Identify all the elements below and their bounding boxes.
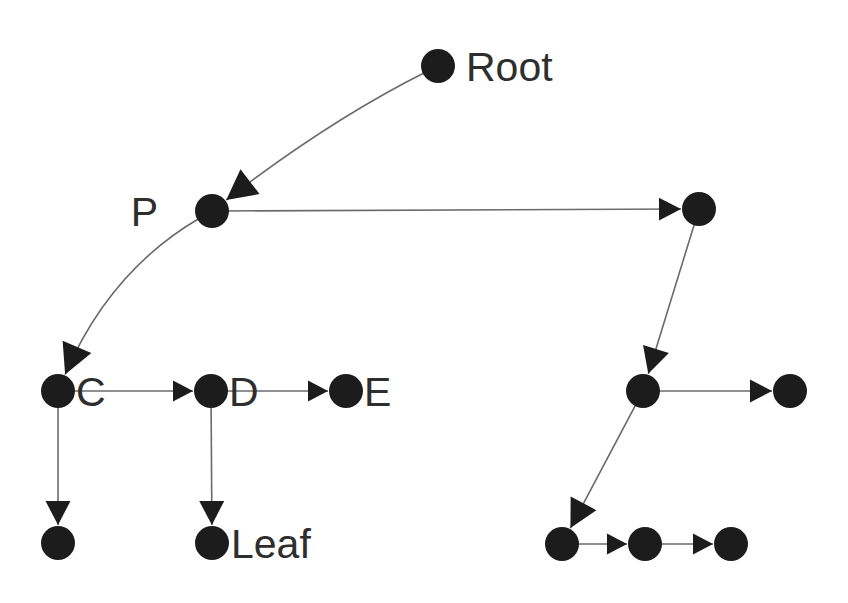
graph-node-e[interactable] bbox=[329, 374, 363, 408]
edges-layer bbox=[46, 72, 772, 555]
graph-svg: RootPCDELeaf bbox=[0, 0, 848, 603]
arrowhead-icon-r2-b1 bbox=[570, 497, 596, 529]
arrowhead-icon-c-d bbox=[173, 381, 193, 402]
arrowhead-icon-p-r1 bbox=[659, 198, 681, 221]
graph-node-root[interactable] bbox=[421, 49, 455, 83]
graph-node-d[interactable] bbox=[194, 374, 228, 408]
edge-r2-b1[interactable] bbox=[570, 402, 637, 528]
graph-node-unlabeled-b1[interactable] bbox=[545, 527, 579, 561]
graph-node-leaf[interactable] bbox=[195, 526, 229, 560]
edge-line-root-p bbox=[226, 72, 426, 200]
node-label-e: E bbox=[364, 369, 391, 415]
graph-node-unlabeled-r3[interactable] bbox=[773, 374, 807, 408]
arrowhead-icon-r1-r2 bbox=[643, 345, 669, 374]
arrowhead-icon-d-leaf bbox=[199, 501, 224, 525]
arrowhead-icon-r2-r3 bbox=[750, 380, 772, 403]
edge-p-c[interactable] bbox=[63, 218, 201, 375]
arrowhead-icon-c-cl bbox=[46, 501, 71, 525]
edge-b1-b2[interactable] bbox=[574, 534, 627, 555]
graph-node-unlabeled-b2[interactable] bbox=[628, 527, 662, 561]
arrowhead-icon-root-p bbox=[226, 169, 259, 200]
node-label-p: P bbox=[131, 189, 158, 235]
node-label-d: D bbox=[229, 369, 259, 415]
graph-node-unlabeled-r2[interactable] bbox=[626, 374, 660, 408]
nodes-layer bbox=[41, 49, 807, 561]
node-label-c: C bbox=[76, 369, 106, 415]
edge-root-p[interactable] bbox=[226, 72, 426, 200]
edge-c-cl[interactable] bbox=[46, 403, 71, 525]
graph-node-unlabeled-cl[interactable] bbox=[41, 526, 75, 560]
arrowhead-icon-b2-b3 bbox=[693, 534, 713, 555]
graph-node-unlabeled-r1[interactable] bbox=[682, 192, 716, 226]
edge-r2-r3[interactable] bbox=[655, 380, 772, 403]
edge-b2-b3[interactable] bbox=[657, 534, 713, 555]
arrowhead-icon-d-e bbox=[308, 381, 328, 402]
diagram-canvas: RootPCDELeaf bbox=[0, 0, 848, 603]
edge-p-r1[interactable] bbox=[224, 198, 681, 221]
graph-node-p[interactable] bbox=[195, 194, 229, 228]
graph-node-c[interactable] bbox=[41, 374, 75, 408]
labels-layer: RootPCDELeaf bbox=[76, 44, 553, 567]
edge-line-p-r1 bbox=[224, 209, 681, 211]
arrowhead-icon-b1-b2 bbox=[607, 534, 627, 555]
edge-r1-r2[interactable] bbox=[643, 220, 695, 373]
node-label-root: Root bbox=[466, 44, 553, 90]
graph-node-unlabeled-b3[interactable] bbox=[714, 527, 748, 561]
node-label-leaf: Leaf bbox=[231, 521, 311, 567]
edge-d-leaf[interactable] bbox=[199, 403, 224, 525]
